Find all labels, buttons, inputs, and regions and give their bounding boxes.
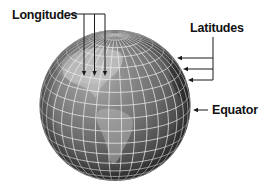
latitudes-label: Latitudes (190, 22, 244, 35)
equator-label: Equator (212, 104, 258, 117)
arrowhead-icon (177, 56, 182, 60)
arrowhead-icon (188, 78, 193, 82)
arrowhead-icon (183, 67, 188, 71)
arrowhead-icon (193, 108, 198, 112)
globe (40, 30, 191, 181)
globe-rim-shade (40, 30, 191, 181)
longitudes-label: Longitudes (12, 9, 77, 22)
